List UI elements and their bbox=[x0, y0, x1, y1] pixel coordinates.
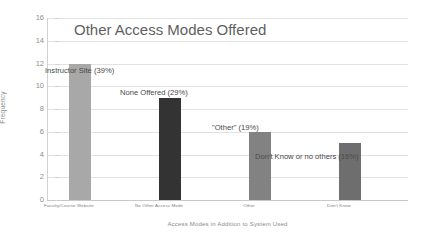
bar-no-other-access-mode bbox=[159, 98, 181, 200]
y-tick-mark-12 bbox=[55, 64, 59, 65]
gridline-10 bbox=[47, 86, 408, 87]
x-tick-label-other: Other bbox=[209, 203, 289, 208]
plot-area bbox=[47, 18, 408, 200]
x-axis-line bbox=[47, 200, 408, 201]
x-tick-label-no-other-access-mode: No Other Access Mode bbox=[119, 203, 199, 208]
y-tick-mark-2 bbox=[55, 177, 59, 178]
gridline-8 bbox=[47, 109, 408, 110]
y-tick-mark-0 bbox=[55, 200, 59, 201]
y-tick-14: 14 bbox=[18, 37, 44, 45]
gridline-16 bbox=[47, 18, 408, 19]
annotation-instructor-site: Instructor Site (39%) bbox=[45, 66, 114, 75]
y-tick-10: 10 bbox=[18, 82, 44, 90]
y-axis-ticks: 16 14 12 10 8 6 4 2 0 bbox=[12, 18, 44, 200]
y-tick-mark-14 bbox=[55, 41, 59, 42]
gridline-14 bbox=[47, 41, 408, 42]
annotation-dont-know: Don't Know or no others (16%) bbox=[255, 152, 359, 161]
y-tick-16: 16 bbox=[18, 14, 44, 22]
y-tick-12: 12 bbox=[18, 60, 44, 68]
y-tick-8: 8 bbox=[18, 105, 44, 113]
annotation-other: "Other" (19%) bbox=[212, 123, 259, 132]
x-tick-label-dont-know: Don't Know bbox=[299, 203, 379, 208]
chart-title: Other Access Modes Offered bbox=[74, 21, 266, 38]
y-tick-mark-6 bbox=[55, 132, 59, 133]
y-tick-6: 6 bbox=[18, 128, 44, 136]
y-tick-2: 2 bbox=[18, 173, 44, 181]
y-tick-mark-4 bbox=[55, 155, 59, 156]
bar-faculty-course-website bbox=[69, 64, 91, 201]
y-tick-mark-10 bbox=[55, 86, 59, 87]
y-tick-mark-16 bbox=[55, 18, 59, 19]
bar-other bbox=[249, 132, 271, 200]
y-tick-4: 4 bbox=[18, 151, 44, 159]
x-axis-title: Access Modes in Addition to System Used bbox=[47, 221, 408, 227]
y-axis-title: Frequency bbox=[0, 91, 6, 124]
y-tick-mark-8 bbox=[55, 109, 59, 110]
y-axis-line bbox=[47, 18, 48, 201]
annotation-none-offered: None Offered (29%) bbox=[120, 88, 188, 97]
gridline-12 bbox=[47, 64, 408, 65]
bar-chart: 16 14 12 10 8 6 4 2 0 Frequency Other Ac… bbox=[0, 0, 442, 241]
x-tick-label-faculty-course-website: Faculty/Course Website bbox=[29, 203, 109, 208]
